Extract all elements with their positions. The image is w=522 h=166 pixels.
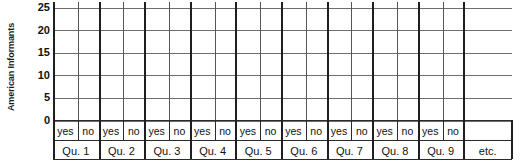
question-cell: Qu. 2 (99, 141, 145, 160)
chart-figure: American Informants 0510152025 yesnoyesn… (0, 0, 522, 166)
table-rule (235, 120, 237, 159)
group-divider-line (418, 2, 420, 121)
y-tick-label: 0 (24, 115, 50, 126)
answer-cell-yes: yes (281, 120, 306, 141)
answer-cell-no: no (215, 120, 236, 141)
answer-cell-yes: yes (235, 120, 260, 141)
answer-cell-yes: yes (327, 120, 352, 141)
table-rule (53, 159, 512, 160)
answer-cell-yes: yes (372, 120, 397, 141)
group-divider-line (53, 2, 55, 121)
table-rule (443, 120, 444, 140)
answer-cell-no: no (169, 120, 190, 141)
answer-divider-line (351, 2, 352, 121)
group-divider-line (99, 2, 101, 121)
question-cell: Qu. 1 (53, 141, 99, 160)
etc-cell: etc. (463, 141, 512, 160)
group-divider-line (144, 2, 146, 121)
group-divider-line (190, 2, 192, 121)
question-cell: Qu. 5 (235, 141, 281, 160)
y-tick-label: 20 (24, 25, 50, 36)
group-divider-line (463, 2, 465, 121)
table-rule (190, 120, 192, 159)
table-rule (511, 120, 513, 159)
answer-cell-no: no (397, 120, 418, 141)
answer-cell-yes: yes (418, 120, 443, 141)
table-rule (372, 120, 374, 159)
question-cell: Qu. 7 (327, 141, 373, 160)
question-cell: Qu. 9 (418, 141, 464, 160)
y-tick-label: 15 (24, 47, 50, 58)
answer-cell-yes: yes (99, 120, 124, 141)
y-tick-label: 25 (24, 2, 50, 13)
table-rule (306, 120, 307, 140)
group-divider-line (235, 2, 237, 121)
table-rule (327, 120, 329, 159)
answer-cell-no: no (260, 120, 281, 141)
y-axis-title: American Informants (6, 2, 16, 132)
table-rule (397, 120, 398, 140)
answer-cell-no: no (351, 120, 372, 141)
plot-area (53, 8, 512, 121)
group-divider-line (372, 2, 374, 121)
table-rule (351, 120, 352, 140)
answer-divider-line (123, 2, 124, 121)
table-rule (463, 120, 465, 159)
answer-cell-yes: yes (144, 120, 169, 141)
group-divider-line (327, 2, 329, 121)
answer-cell-no: no (123, 120, 144, 141)
answer-cell-no: no (443, 120, 464, 141)
answer-cell-yes: yes (53, 120, 78, 141)
answer-divider-line (397, 2, 398, 121)
y-tick-label: 10 (24, 70, 50, 81)
answer-divider-line (169, 2, 170, 121)
answer-divider-line (78, 2, 79, 121)
table-rule (78, 120, 79, 140)
question-cell: Qu. 8 (372, 141, 418, 160)
table-rule (169, 120, 170, 140)
group-divider-line (281, 2, 283, 121)
y-tick-label: 5 (24, 92, 50, 103)
answer-cell-no: no (306, 120, 327, 141)
answer-cell-yes: yes (190, 120, 215, 141)
answer-divider-line (215, 2, 216, 121)
question-cell: Qu. 3 (144, 141, 190, 160)
table-rule (215, 120, 216, 140)
answer-divider-line (443, 2, 444, 121)
question-cell: Qu. 4 (190, 141, 236, 160)
category-table: yesnoyesnoyesnoyesnoyesnoyesnoyesnoyesno… (53, 120, 512, 160)
table-rule (53, 120, 55, 159)
table-rule (99, 120, 101, 159)
answer-cell-no: no (78, 120, 99, 141)
question-cell: Qu. 6 (281, 141, 327, 160)
table-rule (260, 120, 261, 140)
table-rule (418, 120, 420, 159)
answer-divider-line (306, 2, 307, 121)
table-rule (281, 120, 283, 159)
table-rule (144, 120, 146, 159)
y-axis-tick-labels: 0510152025 (24, 0, 50, 166)
table-rule (123, 120, 124, 140)
answer-divider-line (260, 2, 261, 121)
